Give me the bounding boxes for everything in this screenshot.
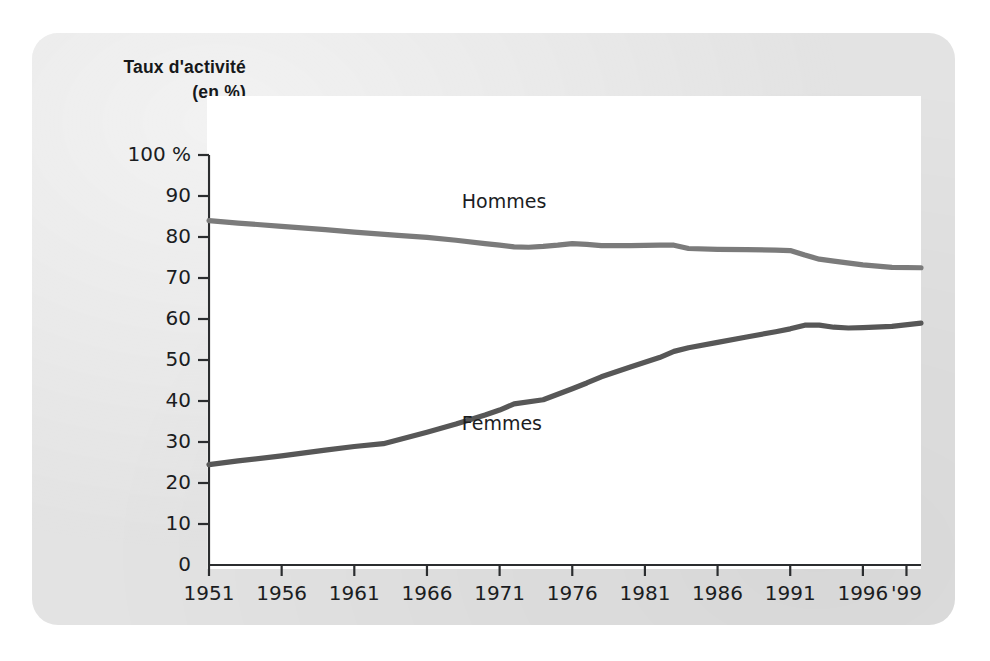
y-tick-label: 40 bbox=[166, 388, 191, 412]
y-tick-label: 50 bbox=[166, 347, 191, 371]
y-tick-label: 20 bbox=[166, 470, 191, 494]
y-tick-label: 70 bbox=[166, 265, 191, 289]
plot-area bbox=[207, 96, 921, 569]
series-label-femmes: Femmes bbox=[462, 412, 542, 434]
y-tick-label: 0 bbox=[178, 552, 191, 576]
chart-title-line1: Taux d'activité bbox=[46, 55, 246, 80]
y-tick-label: 80 bbox=[166, 224, 191, 248]
y-tick-label: 60 bbox=[166, 306, 191, 330]
y-tick-label: 30 bbox=[166, 429, 191, 453]
y-tick-label: 90 bbox=[166, 183, 191, 207]
series-label-hommes: Hommes bbox=[462, 190, 547, 212]
figure-page: Taux d'activité (en %) 01020304050607080… bbox=[0, 0, 990, 661]
y-tick-label: 10 bbox=[166, 511, 191, 535]
y-tick-label: 100 % bbox=[127, 142, 191, 166]
x-tick-label: '99 bbox=[861, 581, 951, 605]
